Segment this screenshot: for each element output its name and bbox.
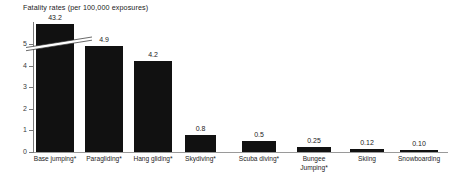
value-label-2: 4.2	[124, 51, 182, 58]
y-tick-label-2-wrap: 2	[0, 109, 27, 110]
y-tick-label-3: 3	[5, 83, 27, 90]
y-tick-label-0-wrap: 0	[0, 152, 27, 153]
value-label-7: 0.10	[390, 140, 448, 147]
value-label-6: 0.12	[340, 139, 394, 146]
value-label-1: 4.9	[75, 36, 133, 43]
y-tick-label-5-wrap: 5	[0, 44, 27, 45]
category-label-4: Scuba diving*	[229, 155, 289, 164]
bar-7	[400, 150, 438, 152]
bar-0	[36, 24, 74, 152]
value-label-0: 43.2	[26, 14, 84, 21]
value-label-4: 0.5	[232, 131, 286, 138]
bar-3	[185, 135, 216, 152]
x-axis-line	[33, 152, 448, 153]
y-tick-label-3-wrap: 3	[0, 87, 27, 88]
y-tick-label-4: 4	[5, 61, 27, 68]
category-label-7: Snowboarding	[387, 155, 451, 164]
value-label-5: 0.25	[287, 137, 341, 144]
y-tick-label-1: 1	[5, 126, 27, 133]
category-label-3: Skydiving*	[172, 155, 229, 164]
fatality-rates-bar-chart: Fatality rates (per 100,000 exposures) 0…	[0, 0, 454, 179]
y-tick-label-2: 2	[5, 104, 27, 111]
chart-title: Fatality rates (per 100,000 exposures)	[23, 3, 148, 12]
y-tick-label-1-wrap: 1	[0, 130, 27, 131]
bar-2	[134, 61, 172, 152]
bar-1	[85, 46, 123, 152]
y-tick-0	[29, 152, 34, 153]
y-tick-label-4-wrap: 4	[0, 66, 27, 67]
value-label-3: 0.8	[175, 125, 226, 132]
bar-6	[350, 149, 384, 152]
bar-4	[242, 141, 276, 152]
y-tick-label-5: 5	[5, 40, 27, 47]
category-label-5: Bungee Jumping*	[284, 155, 344, 172]
bar-5	[297, 147, 331, 152]
y-tick-label-0: 0	[5, 148, 27, 155]
